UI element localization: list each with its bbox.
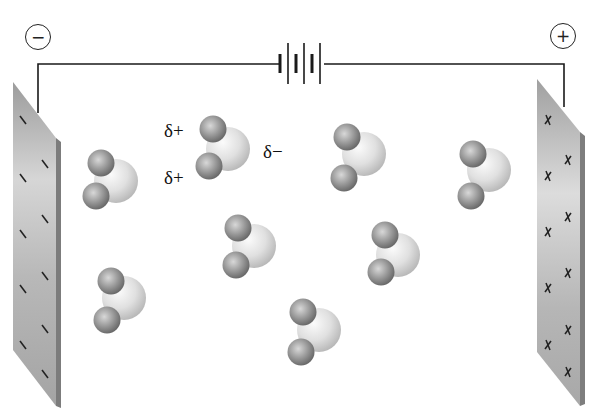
water-molecule: [458, 141, 512, 210]
positive-electrode: [537, 79, 585, 406]
water-molecule: [368, 222, 421, 286]
hydrogen-atom: [225, 215, 252, 242]
hydrogen-atom: [331, 165, 358, 192]
hydrogen-atom: [200, 116, 227, 143]
water-molecule: [83, 150, 139, 210]
battery-icon: [280, 43, 320, 84]
hydrogen-atom: [458, 183, 485, 210]
negative-electrode: [13, 82, 61, 408]
water-molecule: [223, 215, 277, 279]
hydrogen-atom: [288, 339, 315, 366]
water-molecule: [94, 268, 147, 334]
positive-terminal-icon: +: [550, 23, 576, 49]
hydrogen-atom: [368, 259, 395, 286]
hydrogen-atom: [98, 268, 125, 295]
hydrogen-atom: [83, 183, 110, 210]
hydrogen-atom: [334, 124, 361, 151]
water-molecule: [196, 116, 251, 180]
hydrogen-atom: [94, 307, 121, 334]
water-molecules: [83, 116, 512, 366]
delta-minus-label: δ−: [263, 142, 283, 161]
water-molecule: [331, 124, 387, 192]
delta-plus-label-top: δ+: [164, 121, 184, 140]
hydrogen-atom: [196, 153, 223, 180]
negative-terminal-icon: −: [25, 24, 51, 50]
hydrogen-atom: [372, 222, 399, 249]
hydrogen-atom: [460, 141, 487, 168]
diagram-canvas: [0, 0, 597, 417]
circuit-wire: [38, 64, 564, 113]
water-molecule: [288, 299, 342, 366]
delta-plus-label-bottom: δ+: [164, 168, 184, 187]
hydrogen-atom: [88, 150, 115, 177]
hydrogen-atom: [290, 299, 317, 326]
electrolysis-diagram: − + δ+ δ+ δ−: [0, 0, 597, 417]
hydrogen-atom: [223, 252, 250, 279]
